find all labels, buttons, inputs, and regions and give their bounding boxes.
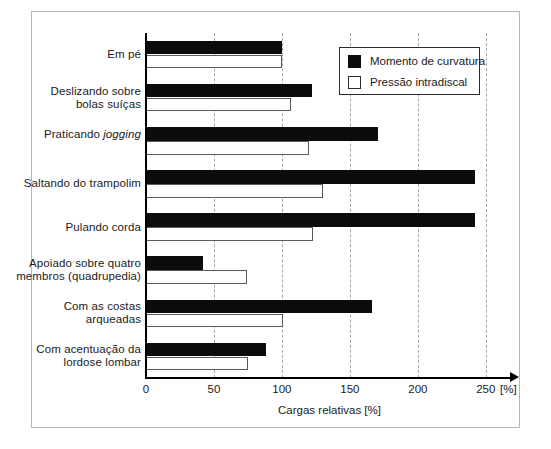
category-label: Apoiado sobre quatromembros (quadrupedia… (1, 257, 141, 283)
bar-momento-de-curvatura (146, 213, 475, 227)
bar-group (146, 127, 513, 155)
bar-group (146, 300, 513, 328)
bar-group (146, 170, 513, 198)
legend-box: Momento de curvatura Pressão intradiscal (339, 47, 480, 95)
x-axis-unit-label: [%] (500, 383, 517, 395)
bar-group (146, 256, 513, 284)
x-tick-150: 150 (330, 383, 370, 395)
x-tick-0: 0 (126, 383, 166, 395)
legend-label: Momento de curvatura (370, 55, 485, 67)
bar-momento-de-curvatura (146, 343, 266, 357)
bar-pressao-intradiscal (146, 270, 247, 284)
category-label: Em pé (1, 48, 141, 61)
category-label: Saltando do trampolim (1, 177, 141, 190)
bar-momento-de-curvatura (146, 84, 312, 98)
legend-label: Pressão intradiscal (370, 76, 467, 88)
x-axis-line (145, 377, 512, 379)
category-label: Com acentuação dalordose lombar (1, 343, 141, 369)
bar-pressao-intradiscal (146, 357, 248, 371)
x-axis-title: Cargas relativas [%] (146, 404, 513, 416)
legend-swatch-dark-icon (348, 55, 361, 68)
category-label: Praticando jogging (1, 128, 141, 141)
bar-momento-de-curvatura (146, 300, 372, 314)
y-axis-line (145, 33, 147, 378)
chart-figure: Em péDeslizando sobrebolas suíçasPratica… (0, 0, 551, 449)
bar-group (146, 343, 513, 371)
bar-group (146, 213, 513, 241)
bar-pressao-intradiscal (146, 314, 283, 328)
x-tick-50: 50 (194, 383, 234, 395)
legend-swatch-light-icon (348, 76, 361, 89)
category-axis-labels: Em péDeslizando sobrebolas suíçasPratica… (0, 33, 141, 378)
bar-pressao-intradiscal (146, 55, 282, 69)
bar-momento-de-curvatura (146, 127, 378, 141)
bar-momento-de-curvatura (146, 170, 475, 184)
category-label: Com as costasarqueadas (1, 300, 141, 326)
legend-item-momento-de-curvatura: Momento de curvatura (348, 51, 485, 71)
bar-momento-de-curvatura (146, 41, 282, 55)
x-axis-arrow-icon (510, 372, 519, 382)
x-tick-100: 100 (262, 383, 302, 395)
bar-pressao-intradiscal (146, 184, 323, 198)
legend-item-pressao-intradiscal: Pressão intradiscal (348, 72, 467, 92)
bar-momento-de-curvatura (146, 256, 203, 270)
category-label: Deslizando sobrebolas suíças (1, 85, 141, 111)
bar-pressao-intradiscal (146, 227, 313, 241)
bar-pressao-intradiscal (146, 98, 291, 112)
x-tick-200: 200 (398, 383, 438, 395)
bar-pressao-intradiscal (146, 141, 309, 155)
category-label: Pulando corda (1, 221, 141, 234)
